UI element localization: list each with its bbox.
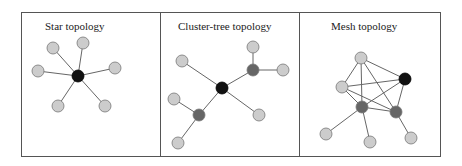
star-topology-panel: Star topology [32,20,121,112]
end-device-node [253,109,265,121]
end-device-node [32,65,44,77]
edge [326,107,362,134]
panel-title: Star topology [45,20,105,32]
panel-title: Cluster-tree topology [178,20,272,32]
router-node [390,106,402,118]
end-device-node [336,81,348,93]
cluster-tree-topology-panel: Cluster-tree topology [168,20,289,149]
end-device-node [405,132,417,144]
coordinator-node [216,82,228,94]
coordinator-node [399,73,411,85]
edge [222,88,259,115]
router-node [193,109,205,121]
edge [182,61,222,88]
end-device-node [277,64,289,76]
edges [326,58,411,142]
end-device-node [168,93,180,105]
end-device-node [176,55,188,67]
end-device-node [99,100,111,112]
network-topology-diagram: Star topology Cluster-tree topology Mesh… [0,0,462,166]
edges [174,47,283,143]
end-device-node [364,136,376,148]
mesh-topology-panel: Mesh topology [320,20,417,148]
router-node [356,101,368,113]
router-node [247,64,259,76]
end-device-node [52,100,64,112]
end-device-node [77,37,89,49]
end-device-node [109,62,121,74]
panel-title: Mesh topology [331,20,398,32]
nodes [32,37,121,112]
edge [361,58,362,107]
end-device-node [172,137,184,149]
end-device-node [355,52,367,64]
coordinator-node [72,70,84,82]
end-device-node [47,42,59,54]
end-device-node [247,41,259,53]
edge [342,79,405,87]
end-device-node [320,128,332,140]
